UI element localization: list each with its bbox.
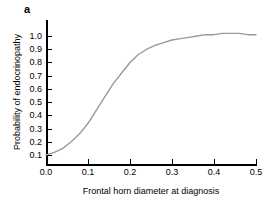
- y-tick-label-0.8: 0.8: [20, 58, 42, 67]
- x-axis-title: Frontal horn diameter at diagnosis: [46, 186, 256, 196]
- x-tick-0.2: [130, 159, 131, 164]
- y-tick-label-0.5: 0.5: [20, 98, 42, 107]
- x-tick-label-0.1: 0.1: [76, 168, 100, 177]
- y-tick-label-0.2: 0.2: [20, 138, 42, 147]
- x-tick-label-0.4: 0.4: [202, 168, 226, 177]
- y-tick-label-0.6: 0.6: [20, 85, 42, 94]
- x-tick-0.1: [88, 159, 89, 164]
- x-tick-label-0.2: 0.2: [118, 168, 142, 177]
- x-tick-0.5: [256, 159, 257, 164]
- x-axis-spine: [46, 164, 257, 166]
- y-tick-label-0.4: 0.4: [20, 111, 42, 120]
- figure-panel: a Probability of endocrinopathy Frontal …: [0, 0, 270, 209]
- x-tick-label-0.3: 0.3: [160, 168, 184, 177]
- y-tick-0.2: [48, 142, 52, 143]
- y-tick-0.7: [48, 76, 52, 77]
- x-tick-label-0.0: 0.0: [34, 168, 58, 177]
- y-tick-0.3: [48, 129, 52, 130]
- y-tick-1.0: [48, 36, 52, 37]
- y-tick-label-0.3: 0.3: [20, 125, 42, 134]
- y-tick-0.4: [48, 115, 52, 116]
- y-tick-label-0.9: 0.9: [20, 45, 42, 54]
- y-tick-0.5: [48, 102, 52, 103]
- y-tick-label-1.0: 1.0: [20, 32, 42, 41]
- y-tick-0.9: [48, 49, 52, 50]
- y-tick-0.6: [48, 89, 52, 90]
- probability-curve: [46, 33, 256, 155]
- y-tick-label-0.1: 0.1: [20, 151, 42, 160]
- y-axis-spine: [46, 20, 48, 166]
- x-tick-0.3: [172, 159, 173, 164]
- y-tick-0.1: [48, 155, 52, 156]
- y-tick-label-0.7: 0.7: [20, 72, 42, 81]
- x-tick-0.0: [46, 159, 47, 164]
- x-tick-label-0.5: 0.5: [244, 168, 268, 177]
- y-tick-0.8: [48, 62, 52, 63]
- panel-label: a: [24, 2, 30, 16]
- x-tick-0.4: [214, 159, 215, 164]
